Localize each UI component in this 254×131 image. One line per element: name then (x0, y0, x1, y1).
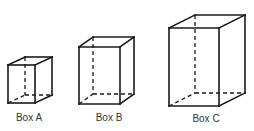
top-left-depth-edge (169, 15, 195, 28)
top-left-depth-edge (79, 37, 93, 47)
box-c-label: Box C (192, 113, 219, 124)
box-a-label: Box A (16, 112, 42, 123)
hidden-bottom-left-depth-edge (79, 94, 93, 104)
bottom-right-depth-edge (219, 93, 245, 106)
top-right-depth-edge (120, 37, 134, 47)
top-left-depth-edge (8, 57, 25, 65)
hidden-bottom-left-depth-edge (8, 95, 25, 103)
top-right-depth-edge (219, 15, 245, 28)
box-diagram: Box A Box B Box C (0, 0, 254, 131)
box-b-label: Box B (96, 112, 123, 123)
box-c (169, 15, 245, 106)
bottom-right-depth-edge (35, 95, 52, 103)
box-a (8, 57, 52, 103)
bottom-right-depth-edge (120, 94, 134, 104)
top-right-depth-edge (35, 57, 52, 65)
hidden-bottom-left-depth-edge (169, 93, 195, 106)
box-b (79, 37, 134, 104)
